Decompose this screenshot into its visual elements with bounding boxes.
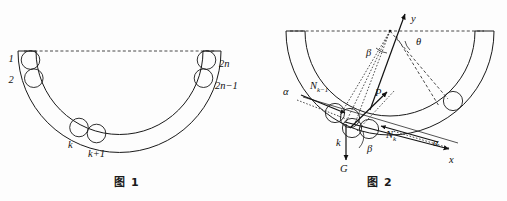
alpha-right-reference: [393, 131, 449, 148]
label-ball-k: k: [68, 139, 73, 150]
outer-arc: [18, 51, 221, 152]
figure-2: y x θ β β α α P G Nk−1 Nk k 图 2: [253, 0, 507, 201]
figure-2-drawing: y x θ β β α α P G Nk−1 Nk k: [253, 0, 507, 201]
outer-arc: [286, 31, 494, 135]
label-axis-x: x: [448, 154, 454, 165]
angle-arc-theta: [405, 41, 410, 50]
figure-1: 1 2 2n 2n−1 k k+1 图 1: [0, 0, 254, 201]
ball-k-plus-1: [359, 119, 378, 138]
ball-2n-minus-1: [194, 69, 213, 88]
label-angle-beta-bottom: β: [366, 143, 373, 154]
figure-page: 1 2 2n 2n−1 k k+1 图 1: [0, 0, 507, 201]
label-ball-2n: 2n: [219, 58, 230, 69]
label-angle-beta-top: β: [365, 47, 372, 58]
figure-2-caption: 图 2: [253, 173, 507, 189]
ball-1: [21, 51, 40, 70]
label-angle-theta: θ: [416, 36, 421, 47]
ball-right-arc: [443, 91, 462, 110]
label-ball-k-plus-1: k+1: [88, 148, 105, 159]
label-force-P: P: [374, 87, 382, 98]
label-angle-alpha-right: α: [433, 137, 439, 148]
label-normal-N-k-minus-1: Nk−1: [309, 80, 328, 94]
label-axis-y: y: [410, 13, 416, 24]
label-angle-alpha-left: α: [283, 86, 289, 97]
ball-2n: [197, 51, 216, 70]
radius-to-ball-k-plus-1: [354, 31, 390, 126]
label-ball-k: k: [336, 137, 341, 148]
inner-arc: [305, 31, 475, 116]
label-ball-2n-minus-1: 2n−1: [215, 80, 238, 91]
ball-k-plus-1: [87, 124, 106, 143]
label-ball-1: 1: [8, 53, 13, 64]
figure-1-drawing: 1 2 2n 2n−1 k k+1: [0, 0, 254, 201]
label-normal-N-k: Nk: [385, 129, 397, 143]
figure-1-caption: 图 1: [0, 173, 254, 189]
label-normal-N-k-minus-1-sub: k−1: [317, 86, 328, 94]
inner-arc: [36, 51, 203, 135]
label-ball-2: 2: [8, 74, 14, 85]
